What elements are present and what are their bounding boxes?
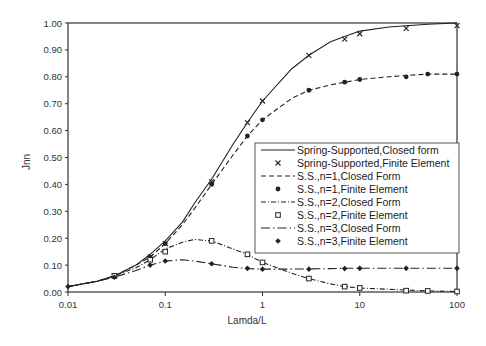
legend-label: S.S.,n=3,Closed Form [297,222,401,234]
x-tick-label: 10 [354,299,365,310]
legend-item: Spring-Supported,Finite Element [276,157,450,169]
x-tick-label: 1 [260,299,265,310]
x-axis-title: Lamda/L [228,315,267,326]
y-tick-label: 0.40 [44,179,63,190]
y-tick-label: 0.10 [44,260,63,271]
legend-label: S.S.,n=1,Closed Form [297,170,401,182]
x-tick-label: 100 [449,299,465,310]
y-tick-label: 1.00 [44,18,63,29]
legend-label: S.S.,n=3,Finite Element [297,235,408,247]
y-tick-label: 0.50 [44,152,63,163]
y-axis: 0.000.100.200.300.400.500.600.700.800.90… [44,18,69,298]
y-tick-label: 0.30 [44,206,63,217]
x-tick-label: 0.01 [59,299,78,310]
legend-label: Spring-Supported,Closed form [297,144,439,156]
chart: 0.000.100.200.300.400.500.600.700.800.90… [0,0,486,346]
x-tick-label: 0.1 [159,299,172,310]
y-tick-label: 0.70 [44,98,63,109]
legend: Spring-Supported,Closed formSpring-Suppo… [255,143,459,253]
x-axis: 0.010.1110100 [59,292,465,310]
y-tick-label: 0.20 [44,233,63,244]
y-tick-label: 0.60 [44,125,63,136]
legend-label: S.S.,n=1,Finite Element [297,183,408,195]
y-tick-label: 0.80 [44,71,63,82]
legend-label: S.S.,n=2,Finite Element [297,209,408,221]
y-tick-label: 0.90 [44,44,63,55]
y-tick-label: 0.00 [44,287,63,298]
legend-label: S.S.,n=2,Closed Form [297,196,401,208]
y-axis-title: Jnn [21,154,32,170]
legend-label: Spring-Supported,Finite Element [297,157,449,169]
